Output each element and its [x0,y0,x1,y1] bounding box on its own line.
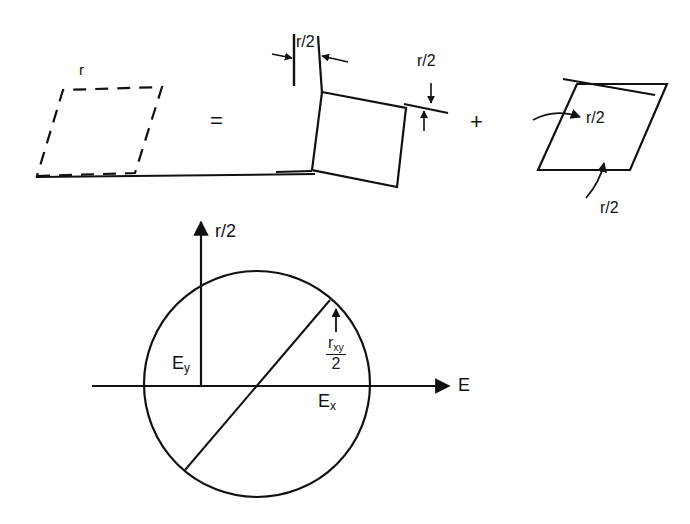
figure-root: r = r/2 r/2 + r/2 r/2 r/2 E Ey Ex rxy 2 [0,0,690,524]
label-strain-ex-base: E [318,391,330,411]
label-r2-shear-inner: r/2 [586,110,605,126]
dimension-arrow-left [272,54,292,58]
shear-arrow-inner [533,113,580,120]
mohr-circle [144,271,370,497]
equals-sign: = [210,110,223,132]
dimension-arrow-right [322,56,348,62]
mohr-circle-group [92,222,449,497]
square-outline [312,92,406,187]
label-r2-shear-bottom: r/2 [600,200,619,216]
baseline [36,174,315,177]
label-strain-ey-subscript: y [184,361,190,375]
right-datum-line [404,104,448,113]
figure-drawing-canvas [0,0,690,524]
fraction-numerator: rxy [326,335,346,353]
label-r2-square-right: r/2 [417,53,436,69]
label-strain-ey: Ey [172,354,190,375]
dashed-parallelogram-group [36,87,315,177]
label-r2-square-left: r/2 [296,34,315,50]
shear-arrow-bottom [586,163,604,198]
square-left-extension [318,36,322,93]
plus-sign: + [470,111,483,133]
label-vertical-axis: r/2 [215,222,236,240]
label-shear-strain-fraction: rxy 2 [326,335,346,373]
label-r-parallelogram: r [79,62,84,77]
label-strain-ex-subscript: x [330,399,336,413]
sheared-parallelogram-outline [538,84,667,170]
left-ground-stub [276,171,312,172]
fraction-denominator: 2 [326,356,346,373]
sheared-parallelogram-group [533,79,667,198]
fraction-numerator-subscript: xy [333,341,344,353]
label-strain-ey-base: E [172,353,184,373]
parallelogram-outline [37,87,162,176]
label-horizontal-axis: E [458,376,470,394]
label-strain-ex: Ex [318,392,336,413]
